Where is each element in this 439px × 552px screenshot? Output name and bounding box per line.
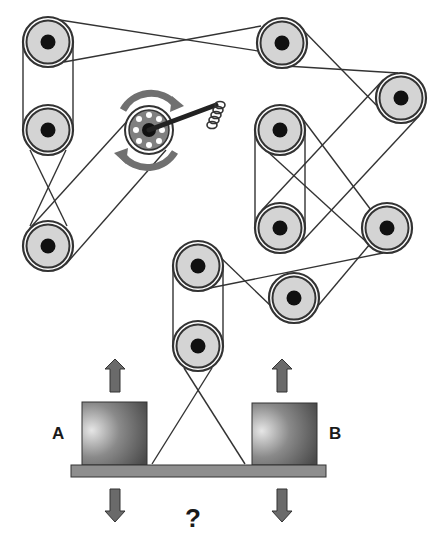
pulley-icon — [23, 105, 73, 155]
pulley-icon — [376, 73, 426, 123]
pulley-icon — [269, 273, 319, 323]
pulley-icon — [173, 321, 223, 371]
arrow-down-icon — [105, 489, 125, 522]
crank-wheel-icon — [114, 93, 225, 167]
arrow-up-icon — [105, 359, 125, 392]
box-b — [252, 403, 317, 465]
pulley-icon — [23, 17, 73, 67]
pulley-icon — [173, 241, 223, 291]
pulleys — [23, 17, 426, 371]
pulley-icon — [255, 105, 305, 155]
label-box-b: B — [329, 424, 341, 444]
pulley-icon — [255, 203, 305, 253]
pulley-icon — [257, 18, 307, 68]
label-box-a: A — [52, 424, 64, 444]
pulley-icon — [362, 203, 412, 253]
pulley-icon — [23, 221, 73, 271]
arrow-up-icon — [272, 359, 292, 392]
belts — [23, 20, 419, 464]
question-mark: ? — [185, 503, 201, 534]
plank — [71, 465, 326, 477]
box-a — [82, 402, 147, 465]
pulley-diagram — [0, 0, 439, 552]
arrow-down-icon — [272, 489, 292, 522]
